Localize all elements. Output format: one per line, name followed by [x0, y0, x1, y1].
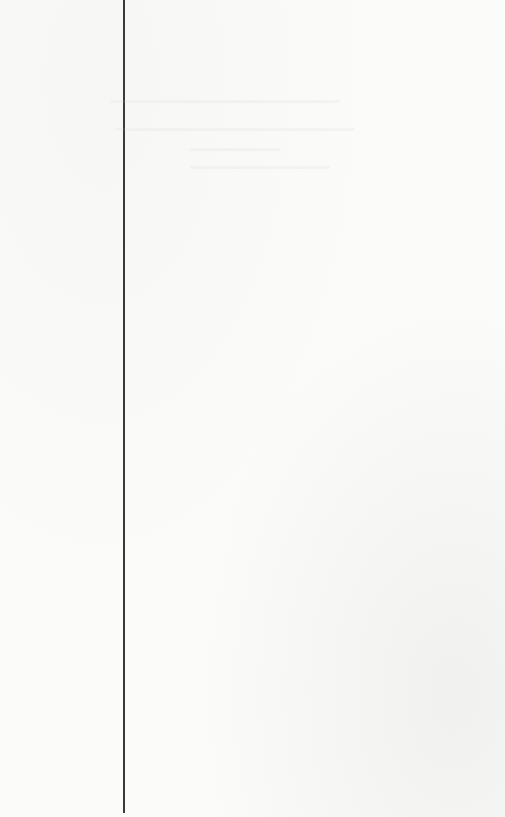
bleed-through-mark [110, 100, 340, 103]
bleed-through-mark [115, 128, 355, 131]
vertical-margin-rule [123, 0, 125, 813]
document-page [0, 0, 505, 817]
bleed-through-mark [190, 148, 280, 151]
bleed-through-mark [190, 166, 330, 169]
